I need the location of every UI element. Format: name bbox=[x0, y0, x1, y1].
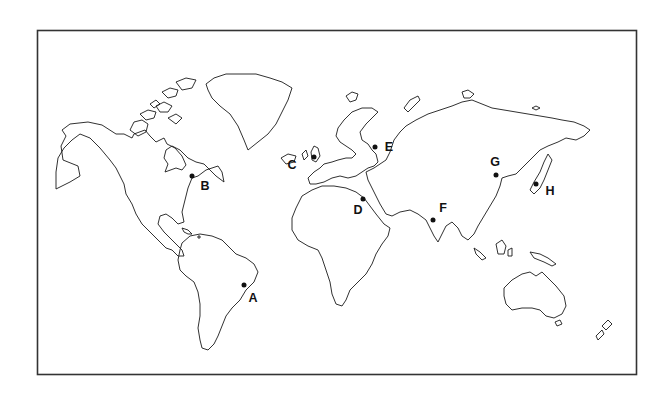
map-frame bbox=[38, 31, 637, 375]
asia-outline bbox=[366, 100, 590, 242]
marker-c-dot[interactable] bbox=[312, 155, 317, 160]
marker-d-label: D bbox=[353, 204, 362, 217]
marker-g-label: G bbox=[490, 156, 500, 169]
british-isles-outline bbox=[302, 146, 320, 162]
marker-b-label: B bbox=[200, 180, 209, 193]
tasmania-outline bbox=[555, 320, 562, 326]
arctic-islands-outline bbox=[130, 78, 196, 136]
caribbean-islands-outline bbox=[182, 228, 200, 238]
marker-f-label: F bbox=[439, 202, 447, 215]
marker-d-dot[interactable] bbox=[361, 197, 366, 202]
marker-b-dot[interactable] bbox=[190, 174, 195, 179]
new-zealand-outline bbox=[596, 320, 612, 340]
greenland-outline bbox=[206, 74, 292, 150]
new-guinea-outline bbox=[530, 252, 556, 266]
australia-outline bbox=[504, 272, 566, 318]
marker-g-dot[interactable] bbox=[494, 173, 499, 178]
europe-outline bbox=[308, 108, 378, 184]
marker-c-label: C bbox=[287, 159, 296, 172]
marker-h-dot[interactable] bbox=[534, 182, 539, 187]
marker-e-dot[interactable] bbox=[373, 145, 378, 150]
marker-h-label: H bbox=[545, 185, 554, 198]
marker-e-label: E bbox=[385, 141, 393, 154]
south-america-outline bbox=[178, 234, 258, 350]
world-map bbox=[0, 0, 667, 397]
southeast-asia-islands-outline bbox=[474, 240, 512, 260]
marker-a-dot[interactable] bbox=[242, 283, 247, 288]
africa-outline bbox=[292, 186, 390, 306]
marker-a-label: A bbox=[248, 292, 257, 305]
marker-f-dot[interactable] bbox=[431, 218, 436, 223]
